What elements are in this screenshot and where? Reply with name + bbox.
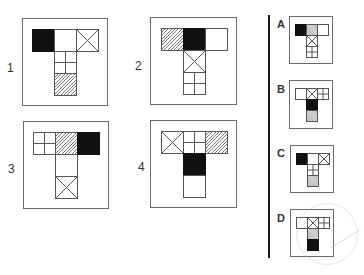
blank-tile [55,154,78,177]
cross-tile [183,50,206,73]
cross-tile [76,29,99,52]
option-a[interactable] [289,16,333,64]
grid-tile [317,88,329,100]
watermark-line [330,229,361,249]
figure-1-label: 1 [7,61,14,75]
grid-tile [33,132,56,155]
option-c[interactable] [290,145,334,193]
black-tile [183,28,206,51]
figure-4 [150,120,237,208]
grey-tile [306,110,318,122]
grid-tile [183,131,206,154]
option-c-label: C [277,147,285,159]
blank-tile [183,175,206,198]
blank-tile [317,24,329,36]
puzzle-stage: 1 2 3 4 A B C D [0,0,364,275]
divider-line [268,15,270,258]
blank-tile [205,28,228,51]
grid-tile [318,217,330,229]
figure-3 [23,121,109,209]
hatch-tile [54,73,77,96]
option-b-label: B [277,83,285,95]
cross-tile [55,176,78,199]
figure-2-label: 2 [135,59,142,73]
hatch-tile [161,28,184,51]
hatch-tile [205,131,228,154]
black-tile [77,132,100,155]
figure-3-label: 3 [8,162,15,176]
black-tile [307,239,319,251]
option-d-label: D [277,212,285,224]
grid-tile [183,72,206,95]
grey-tile [307,175,319,187]
option-a-label: A [277,18,285,30]
option-b[interactable] [289,80,333,129]
hatch-tile [55,132,78,155]
figure-2 [150,17,237,105]
cross-tile [161,131,184,154]
figure-4-label: 4 [138,160,145,174]
option-d[interactable] [290,209,334,257]
figure-1 [22,18,108,106]
black-tile [183,153,206,176]
black-tile [32,29,55,52]
cross-tile [318,153,330,165]
grid-tile [54,51,77,74]
blank-tile [54,29,77,52]
grid-tile [306,46,318,58]
